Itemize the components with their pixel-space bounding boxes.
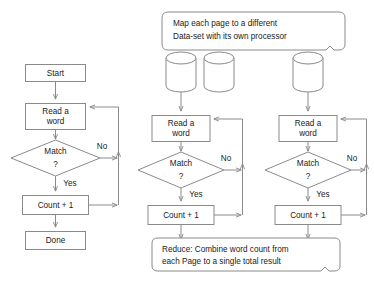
datastore-cylinder-1 — [166, 52, 196, 92]
parallel1-read-node: Read a word — [152, 116, 210, 142]
serial-count-node: Count + 1 — [23, 196, 89, 215]
parallel1-edge-label-yes: Yes — [189, 190, 202, 199]
datastore-cylinder-3 — [293, 52, 323, 92]
map-banner-line2: Data-set with its own processor — [173, 32, 287, 41]
serial-start-label: Start — [47, 69, 65, 78]
parallel2-match-decision: Match ? — [265, 152, 351, 188]
reduce-banner: Reduce: Combine word count from each Pag… — [152, 238, 340, 271]
reduce-banner-line1: Reduce: Combine word count from — [162, 245, 289, 254]
parallel1-match-label-line2: ? — [179, 172, 184, 181]
serial-match-label-line1: Match — [44, 147, 67, 156]
flowchart-diagram: Start Read a word Match ? No Yes Count +… — [0, 0, 374, 281]
serial-read-label-line1: Read a — [42, 107, 69, 116]
serial-count-label: Count + 1 — [38, 201, 74, 210]
parallel2-count-node: Count + 1 — [275, 206, 341, 225]
serial-edge-label-no: No — [97, 142, 108, 151]
parallel1-edge-label-no: No — [221, 154, 232, 163]
serial-read-label-line2: word — [46, 117, 65, 126]
parallel1-count-label: Count + 1 — [163, 211, 199, 220]
parallel1-match-decision: Match ? — [138, 152, 224, 188]
serial-done-label: Done — [46, 236, 66, 245]
serial-read-node: Read a word — [26, 104, 86, 130]
parallel2-edge-label-yes: Yes — [316, 190, 329, 199]
datastore-cylinder-2 — [204, 52, 234, 92]
flowchart-canvas: Start Read a word Match ? No Yes Count +… — [0, 0, 374, 281]
serial-edge-label-yes: Yes — [63, 179, 76, 188]
parallel2-count-label: Count + 1 — [290, 211, 326, 220]
parallel1-count-node: Count + 1 — [148, 206, 214, 225]
reduce-banner-line2: each Page to a single total result — [162, 257, 282, 266]
parallel-flow-1-group: Read a word Match ? No Yes Count + 1 — [138, 116, 243, 240]
parallel1-read-label-line1: Read a — [168, 119, 195, 128]
serial-flow-group: Start Read a word Match ? No Yes Count +… — [11, 65, 119, 250]
map-banner-line1: Map each page to a different — [173, 19, 278, 28]
parallel1-read-label-line2: word — [171, 129, 190, 138]
parallel2-match-label-line2: ? — [306, 172, 311, 181]
parallel-flow-2-group: Read a word Match ? No Yes Count + 1 — [265, 116, 367, 240]
parallel2-read-label-line2: word — [298, 129, 317, 138]
serial-done-node: Done — [26, 232, 86, 250]
parallel2-read-label-line1: Read a — [295, 119, 322, 128]
serial-start-node: Start — [26, 65, 86, 82]
parallel2-read-node: Read a word — [279, 116, 337, 142]
parallel2-edge-label-no: No — [347, 154, 358, 163]
serial-match-decision: Match ? — [11, 140, 100, 176]
parallel1-match-label-line1: Match — [170, 159, 193, 168]
parallel2-match-label-line1: Match — [297, 159, 320, 168]
serial-match-label-line2: ? — [53, 160, 58, 169]
parallel1-loop-back-connector — [214, 119, 243, 215]
map-banner: Map each page to a different Data-set wi… — [162, 12, 345, 50]
